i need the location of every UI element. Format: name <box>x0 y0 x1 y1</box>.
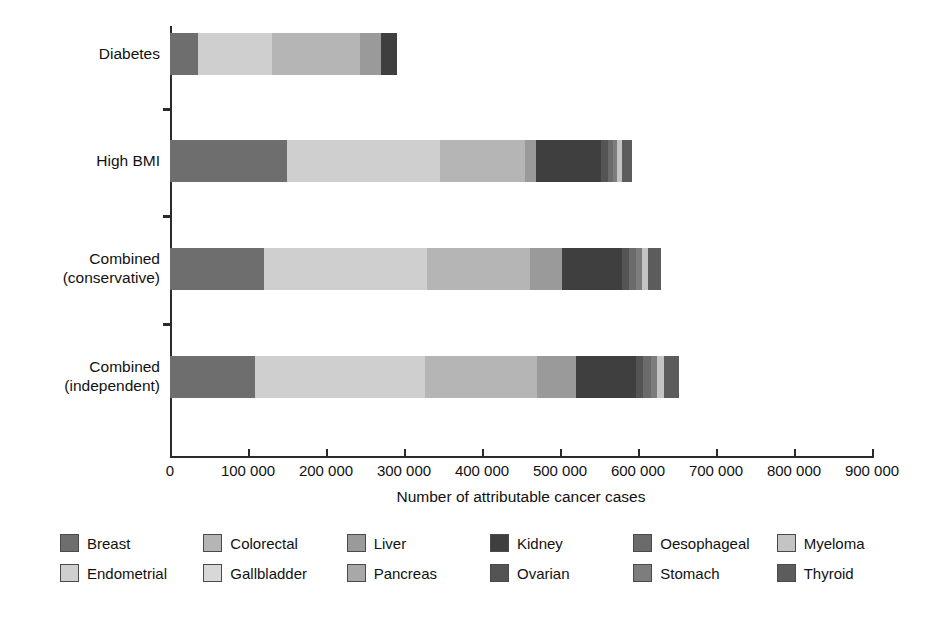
legend-label: Oesophageal <box>660 535 749 552</box>
legend-swatch-stomach <box>633 564 652 582</box>
bar-segment-breast <box>170 248 264 290</box>
x-tick-label: 700 000 <box>689 462 743 479</box>
bar-segment-liver <box>530 248 562 290</box>
category-label-line: (conservative) <box>0 268 160 287</box>
legend-label: Liver <box>374 535 407 552</box>
legend-swatch-kidney <box>490 534 509 552</box>
bar-segment-endometrial <box>264 248 428 290</box>
legend-item-thyroid: Thyroid <box>777 564 920 582</box>
bar-segment-oesophageal <box>629 248 637 290</box>
x-tick <box>794 449 796 458</box>
legend-swatch-breast <box>60 534 79 552</box>
bar-segment-ovarian <box>601 140 608 182</box>
bar-segment-endometrial <box>287 140 440 182</box>
y-tick <box>163 323 171 326</box>
legend-label: Thyroid <box>804 565 854 582</box>
x-tick <box>560 449 562 458</box>
bar-segment-colorectal <box>272 33 359 75</box>
bar-segment-liver <box>360 33 381 75</box>
x-axis-title: Number of attributable cancer cases <box>170 488 872 506</box>
bar-stack <box>170 248 661 290</box>
bar-segment-oesophageal <box>643 356 652 398</box>
legend-label: Myeloma <box>804 535 865 552</box>
bar-segment-thyroid <box>622 140 632 182</box>
y-tick <box>163 108 171 111</box>
x-tick-label: 900 000 <box>845 462 899 479</box>
x-tick-label: 0 <box>166 462 174 479</box>
legend-swatch-endometrial <box>60 564 79 582</box>
category-label-combined-conservative: Combined(conservative) <box>0 249 160 287</box>
legend-swatch-gallbladder <box>203 564 222 582</box>
x-tick-label: 100 000 <box>221 462 275 479</box>
category-label-combined-independent: Combined(independent) <box>0 357 160 395</box>
legend-item-oesophageal: Oesophageal <box>633 534 776 552</box>
legend-item-pancreas: Pancreas <box>347 564 490 582</box>
bar-segment-kidney <box>381 33 397 75</box>
legend-label: Ovarian <box>517 565 570 582</box>
legend-item-liver: Liver <box>347 534 490 552</box>
legend-swatch-myeloma <box>777 534 796 552</box>
x-axis-line <box>170 456 874 458</box>
legend-label: Breast <box>87 535 130 552</box>
bar-segment-endometrial <box>255 356 425 398</box>
bar-segment-colorectal <box>440 140 525 182</box>
bar-segment-ovarian <box>622 248 629 290</box>
chart-figure: 0100 000200 000300 000400 000500 000600 … <box>0 0 948 617</box>
legend-label: Colorectal <box>230 535 298 552</box>
legend-label: Kidney <box>517 535 563 552</box>
bar-segment-endometrial <box>198 33 272 75</box>
bar-segment-kidney <box>562 248 622 290</box>
x-tick <box>326 449 328 458</box>
legend-label: Pancreas <box>374 565 437 582</box>
category-label-line: Combined <box>0 357 160 376</box>
x-tick-label: 300 000 <box>377 462 431 479</box>
legend-item-ovarian: Ovarian <box>490 564 633 582</box>
chart-legend: BreastColorectalLiverKidneyOesophagealMy… <box>60 528 920 588</box>
x-tick-label: 400 000 <box>455 462 509 479</box>
bar-segment-liver <box>525 140 536 182</box>
category-label-line: Diabetes <box>0 44 160 63</box>
legend-swatch-oesophageal <box>633 534 652 552</box>
bar-segment-thyroid <box>648 248 660 290</box>
category-label-line: (independent) <box>0 376 160 395</box>
legend-item-colorectal: Colorectal <box>203 534 346 552</box>
x-tick <box>404 449 406 458</box>
bar-segment-colorectal <box>427 248 529 290</box>
bar-segment-thyroid <box>664 356 678 398</box>
x-tick <box>248 449 250 458</box>
bar-stack <box>170 33 397 75</box>
x-tick-label: 600 000 <box>611 462 665 479</box>
bar-segment-kidney <box>536 140 601 182</box>
x-tick-label: 500 000 <box>533 462 587 479</box>
legend-swatch-ovarian <box>490 564 509 582</box>
bar-segment-liver <box>537 356 575 398</box>
legend-label: Stomach <box>660 565 719 582</box>
bar-segment-myeloma <box>657 356 664 398</box>
legend-item-myeloma: Myeloma <box>777 534 920 552</box>
category-label-line: Combined <box>0 249 160 268</box>
y-tick <box>163 215 171 218</box>
bar-segment-breast <box>170 140 287 182</box>
x-tick <box>170 449 172 458</box>
legend-swatch-liver <box>347 534 366 552</box>
legend-swatch-thyroid <box>777 564 796 582</box>
category-label-high-bmi: High BMI <box>0 151 160 170</box>
legend-label: Gallbladder <box>230 565 307 582</box>
legend-item-kidney: Kidney <box>490 534 633 552</box>
legend-item-endometrial: Endometrial <box>60 564 203 582</box>
legend-swatch-colorectal <box>203 534 222 552</box>
legend-label: Endometrial <box>87 565 167 582</box>
x-tick <box>638 449 640 458</box>
bar-stack <box>170 140 632 182</box>
legend-item-breast: Breast <box>60 534 203 552</box>
x-tick <box>482 449 484 458</box>
x-tick <box>872 449 874 458</box>
bar-stack <box>170 356 679 398</box>
legend-item-stomach: Stomach <box>633 564 776 582</box>
category-label-line: High BMI <box>0 151 160 170</box>
bar-segment-ovarian <box>636 356 643 398</box>
x-tick <box>716 449 718 458</box>
category-label-diabetes: Diabetes <box>0 44 160 63</box>
legend-item-gallbladder: Gallbladder <box>203 564 346 582</box>
bar-segment-breast <box>170 33 198 75</box>
